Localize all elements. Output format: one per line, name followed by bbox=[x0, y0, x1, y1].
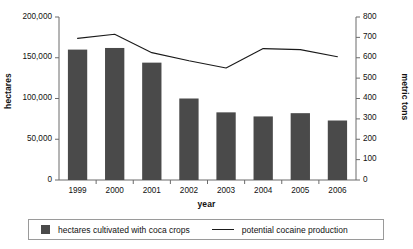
legend-label-bars: hectares cultivated with coca crops bbox=[58, 225, 190, 235]
plot-area bbox=[0, 0, 413, 249]
bar bbox=[105, 48, 124, 180]
bar-series-hectares-cultivated-with-coca-crops bbox=[68, 48, 347, 180]
bar bbox=[291, 113, 310, 180]
legend-line-icon bbox=[212, 229, 234, 230]
bar bbox=[254, 116, 273, 180]
chart-container: hectares metric tons year 050,000100,000… bbox=[0, 0, 413, 249]
legend-item-hectares-cultivated: hectares cultivated with coca crops bbox=[41, 225, 190, 235]
legend-swatch-icon bbox=[41, 225, 50, 234]
legend: hectares cultivated with coca crops pote… bbox=[28, 219, 384, 240]
bar bbox=[142, 63, 161, 180]
axes-group bbox=[55, 17, 360, 184]
bar bbox=[216, 112, 235, 180]
bar bbox=[328, 121, 347, 180]
legend-label-line: potential cocaine production bbox=[242, 225, 348, 235]
bar bbox=[179, 99, 198, 181]
legend-item-potential-cocaine-production: potential cocaine production bbox=[212, 225, 348, 235]
bar bbox=[68, 50, 87, 180]
